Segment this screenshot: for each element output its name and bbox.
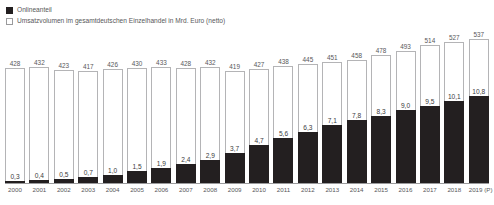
bar-column[interactable]: 4788,3 bbox=[371, 33, 391, 183]
chart-legend: Onlineanteil Umsatzvolumen im gesamtdeut… bbox=[6, 6, 225, 28]
legend-item-onlineanteil: Onlineanteil bbox=[6, 6, 225, 14]
total-value-label: 445 bbox=[303, 56, 314, 63]
total-value-label: 417 bbox=[83, 63, 94, 70]
bar-column[interactable]: 4230,5 bbox=[54, 33, 74, 183]
bar-column[interactable]: 4301,5 bbox=[127, 33, 147, 183]
online-share-bar[interactable] bbox=[298, 132, 318, 183]
online-value-label: 0,3 bbox=[10, 173, 19, 180]
total-bar[interactable] bbox=[54, 70, 74, 183]
total-value-label: 419 bbox=[229, 63, 240, 70]
total-bar[interactable] bbox=[78, 71, 98, 183]
x-axis-tick-label: 2004 bbox=[103, 186, 123, 194]
x-axis-tick-label: 2015 bbox=[371, 186, 391, 194]
total-value-label: 426 bbox=[107, 61, 118, 68]
online-share-bar[interactable] bbox=[420, 106, 440, 183]
x-axis-tick-label: 2016 bbox=[396, 186, 416, 194]
online-share-bar[interactable] bbox=[151, 168, 171, 183]
legend-label-umsatzvolumen: Umsatzvolumen im gesamtdeutschen Einzelh… bbox=[17, 17, 225, 25]
x-axis-tick-label: 2009 bbox=[225, 186, 245, 194]
x-axis-tick-label: 2010 bbox=[249, 186, 269, 194]
online-share-bar[interactable] bbox=[225, 153, 245, 183]
online-value-label: 1,0 bbox=[108, 167, 117, 174]
bar-column[interactable]: 4261,0 bbox=[103, 33, 123, 183]
total-value-label: 478 bbox=[376, 47, 387, 54]
online-value-label: 9,5 bbox=[425, 98, 434, 105]
x-axis-tick-label: 2017 bbox=[420, 186, 440, 194]
total-bar[interactable] bbox=[5, 68, 25, 183]
total-value-label: 427 bbox=[254, 61, 265, 68]
online-share-bar[interactable] bbox=[469, 96, 489, 183]
total-value-label: 451 bbox=[327, 54, 338, 61]
online-value-label: 10,8 bbox=[472, 88, 485, 95]
x-axis-tick-label: 2007 bbox=[176, 186, 196, 194]
total-value-label: 428 bbox=[181, 60, 192, 67]
total-value-label: 432 bbox=[34, 59, 45, 66]
online-value-label: 4,7 bbox=[254, 137, 263, 144]
bar-column[interactable]: 4280,3 bbox=[5, 33, 25, 183]
bar-column[interactable]: 4282,4 bbox=[176, 33, 196, 183]
legend-item-umsatzvolumen: Umsatzvolumen im gesamtdeutschen Einzelh… bbox=[6, 17, 225, 25]
online-share-bar[interactable] bbox=[249, 145, 269, 183]
bar-column[interactable]: 4939,0 bbox=[396, 33, 416, 183]
total-value-label: 493 bbox=[400, 43, 411, 50]
x-axis-tick-label: 2011 bbox=[273, 186, 293, 194]
x-axis-tick-label: 2002 bbox=[54, 186, 74, 194]
online-share-bar[interactable] bbox=[127, 171, 147, 183]
x-axis-tick-label: 2008 bbox=[200, 186, 220, 194]
total-bar[interactable] bbox=[103, 69, 123, 183]
bar-column[interactable]: 4274,7 bbox=[249, 33, 269, 183]
x-axis-tick-label: 2014 bbox=[347, 186, 367, 194]
online-value-label: 9,0 bbox=[401, 102, 410, 109]
online-share-bar[interactable] bbox=[444, 101, 464, 183]
total-bar[interactable] bbox=[29, 67, 49, 183]
bar-columns: 4280,34320,44230,54170,74261,04301,54331… bbox=[5, 33, 489, 183]
bar-column[interactable]: 4320,4 bbox=[29, 33, 49, 183]
online-value-label: 1,9 bbox=[157, 160, 166, 167]
x-axis: 2000200120022003200420052006200720082009… bbox=[5, 183, 489, 203]
x-axis-tick-label: 2000 bbox=[5, 186, 25, 194]
total-value-label: 428 bbox=[10, 60, 21, 67]
bar-column[interactable]: 5149,5 bbox=[420, 33, 440, 183]
x-axis-tick-label: 2003 bbox=[78, 186, 98, 194]
bar-column[interactable]: 4193,7 bbox=[225, 33, 245, 183]
online-share-bar[interactable] bbox=[322, 125, 342, 183]
total-value-label: 527 bbox=[449, 34, 460, 41]
online-value-label: 5,6 bbox=[279, 130, 288, 137]
x-axis-tick-label: 2006 bbox=[151, 186, 171, 194]
x-axis-tick-label: 2018 bbox=[444, 186, 464, 194]
x-axis-tick-label: 2001 bbox=[29, 186, 49, 194]
online-share-bar[interactable] bbox=[371, 116, 391, 183]
total-value-label: 432 bbox=[205, 59, 216, 66]
total-value-label: 514 bbox=[425, 37, 436, 44]
online-share-bar[interactable] bbox=[176, 164, 196, 183]
online-value-label: 3,7 bbox=[230, 145, 239, 152]
online-value-label: 1,5 bbox=[132, 163, 141, 170]
online-value-label: 2,9 bbox=[206, 152, 215, 159]
total-value-label: 423 bbox=[58, 62, 69, 69]
online-share-bar[interactable] bbox=[103, 175, 123, 183]
x-axis-tick-label: 2013 bbox=[322, 186, 342, 194]
bar-column[interactable]: 53710,8 bbox=[469, 33, 489, 183]
online-share-bar[interactable] bbox=[347, 120, 367, 183]
online-value-label: 6,3 bbox=[303, 124, 312, 131]
online-value-label: 8,3 bbox=[377, 108, 386, 115]
legend-swatch-light-icon bbox=[6, 18, 13, 25]
online-value-label: 2,4 bbox=[181, 156, 190, 163]
bar-column[interactable]: 4587,8 bbox=[347, 33, 367, 183]
total-value-label: 458 bbox=[351, 52, 362, 59]
bar-column[interactable]: 4385,6 bbox=[273, 33, 293, 183]
online-share-bar[interactable] bbox=[273, 138, 293, 183]
bar-column[interactable]: 4331,9 bbox=[151, 33, 171, 183]
online-share-bar[interactable] bbox=[200, 160, 220, 183]
online-share-bar[interactable] bbox=[396, 110, 416, 183]
bar-column[interactable]: 52710,1 bbox=[444, 33, 464, 183]
online-value-label: 7,1 bbox=[328, 117, 337, 124]
bar-column[interactable]: 4456,3 bbox=[298, 33, 318, 183]
x-axis-ticks: 2000200120022003200420052006200720082009… bbox=[5, 186, 489, 194]
bar-column[interactable]: 4517,1 bbox=[322, 33, 342, 183]
online-value-label: 7,8 bbox=[352, 112, 361, 119]
online-value-label: 0,7 bbox=[84, 169, 93, 176]
total-value-label: 537 bbox=[473, 31, 484, 38]
bar-column[interactable]: 4170,7 bbox=[78, 33, 98, 183]
bar-column[interactable]: 4322,9 bbox=[200, 33, 220, 183]
